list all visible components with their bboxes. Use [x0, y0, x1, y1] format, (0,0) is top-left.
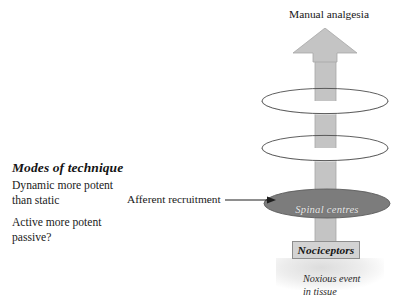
- right-arrow-icon: [225, 195, 277, 205]
- modes-line-dynamic: Dynamic more potent than static: [12, 178, 134, 208]
- nociceptors-box: Nociceptors: [292, 241, 360, 259]
- modes-of-technique-block: Modes of technique Dynamic more potent t…: [12, 160, 134, 245]
- noxious-event-line-2: in tissue: [303, 285, 360, 298]
- afferent-recruitment-annotation: Afferent recruitment: [127, 193, 277, 207]
- modes-of-technique-heading: Modes of technique: [12, 160, 134, 176]
- ellipse-outline-icon: [261, 87, 389, 115]
- noxious-event-line-1: Noxious event: [303, 272, 360, 285]
- ellipse-outline-icon: [261, 134, 389, 162]
- modes-line-active: Active more potent passive?: [12, 215, 134, 245]
- manual-analgesia-label: Manual analgesia: [289, 8, 369, 20]
- afferent-recruitment-label: Afferent recruitment: [127, 194, 221, 205]
- noxious-event-caption: Noxious event in tissue: [303, 272, 360, 298]
- diagram-canvas: Manual analgesia Spinal centres Nocicept…: [0, 0, 406, 305]
- filled-ellipse-icon: [263, 188, 391, 219]
